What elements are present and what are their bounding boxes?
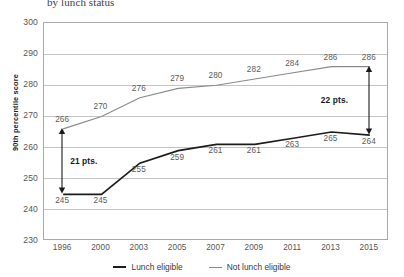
legend-line-icon [209,267,222,268]
data-point-label: 276 [122,84,156,93]
legend-label: Not lunch eligible [227,262,291,272]
data-point-label: 255 [122,165,156,174]
data-point-label: 280 [199,71,233,80]
x-tick-label: 2000 [81,243,121,252]
gap-annotation-label: 22 pts. [321,95,348,105]
data-point-label: 245 [84,196,118,205]
data-point-label: 259 [160,153,194,162]
data-point-label: 286 [314,53,348,62]
x-tick-label: 2013 [311,243,351,252]
data-point-label: 286 [352,53,386,62]
gap-arrow [55,127,69,194]
legend-label: Lunch eligible [131,262,182,272]
data-point-label: 261 [199,146,233,155]
chart-container: by lunch status 90th percentile score 23… [0,0,404,277]
legend-item-lunch-eligible[interactable]: Lunch eligible [113,262,182,272]
y-tick-label: 230 [4,235,38,245]
data-point-label: 266 [45,115,79,124]
data-point-label: 265 [314,134,348,143]
data-point-label: 261 [237,146,271,155]
x-tick-label: 2007 [196,243,236,252]
y-tick-label: 280 [4,79,38,89]
x-tick-label: 1996 [42,243,82,252]
legend-line-icon [113,266,126,268]
data-point-label: 282 [237,65,271,74]
data-point-label: 270 [84,102,118,111]
data-point-label: 263 [275,140,309,149]
y-tick-label: 290 [4,48,38,58]
data-point-label: 264 [352,137,386,146]
data-point-label: 245 [45,196,79,205]
x-tick-label: 2005 [157,243,197,252]
x-tick-label: 2011 [272,243,312,252]
y-tick-label: 300 [4,17,38,27]
y-tick-label: 270 [4,110,38,120]
gap-arrow [362,65,376,136]
x-tick-label: 2009 [234,243,274,252]
chart-legend: Lunch eligibleNot lunch eligible [0,262,404,272]
y-tick-label: 240 [4,204,38,214]
y-tick-label: 250 [4,173,38,183]
y-tick-label: 260 [4,142,38,152]
gap-annotation-label: 21 pts. [70,156,97,166]
x-tick-label: 2015 [349,243,389,252]
data-point-label: 279 [160,74,194,83]
legend-item-not-lunch-eligible[interactable]: Not lunch eligible [209,262,291,272]
chart-title: by lunch status [47,0,115,8]
x-tick-label: 2003 [119,243,159,252]
data-point-label: 284 [275,59,309,68]
